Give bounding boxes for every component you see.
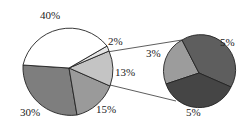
label-sub-3: 3% [146, 47, 161, 59]
pie-of-pie-chart: 40% 2% 13% 15% 30% 3% 5% 5% [0, 0, 247, 127]
label-2: 2% [108, 35, 123, 47]
label-sub-5-bottom: 5% [186, 106, 201, 118]
label-15: 15% [96, 103, 116, 115]
label-sub-5-top: 5% [220, 36, 235, 48]
connector-line-bottom [110, 85, 176, 101]
label-30: 30% [20, 106, 40, 118]
label-40: 40% [40, 9, 60, 21]
label-13: 13% [115, 66, 135, 78]
